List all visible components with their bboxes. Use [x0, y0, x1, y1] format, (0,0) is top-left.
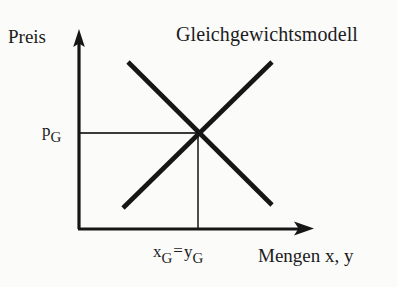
equilibrium-price-label: pG [42, 122, 61, 139]
equilibrium-price-base: p [42, 121, 51, 140]
chart-title: Gleichgewichtsmodell [176, 24, 358, 44]
equilibrium-quantity-x-base: x [153, 242, 162, 261]
equilibrium-quantity-y-subscript: G [192, 250, 203, 266]
equilibrium-model-figure: Gleichgewichtsmodell Preis Mengen x, y p… [0, 0, 397, 287]
x-axis-label: Mengen x, y [258, 246, 354, 265]
equilibrium-quantity-label: xG=yG [153, 243, 203, 260]
y-axis-label: Preis [8, 27, 46, 46]
equilibrium-quantity-equals: = [172, 241, 184, 260]
equilibrium-quantity-x-subscript: G [162, 250, 173, 266]
equilibrium-price-subscript: G [51, 129, 62, 145]
